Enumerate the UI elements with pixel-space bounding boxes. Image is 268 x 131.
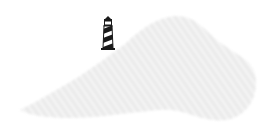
lighthouse-icon <box>100 16 116 52</box>
landmass-silhouette <box>0 0 268 131</box>
map-canvas <box>0 0 268 131</box>
